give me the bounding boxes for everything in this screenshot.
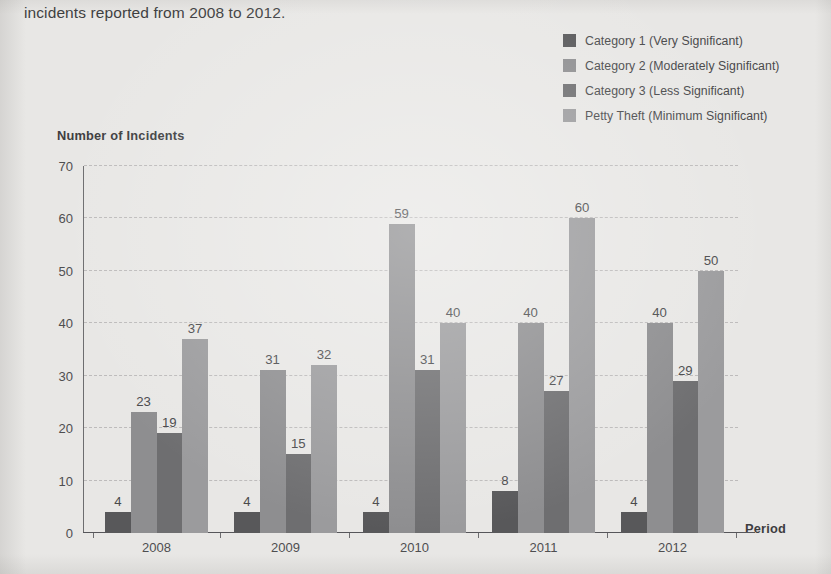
bar: 31 — [415, 166, 441, 533]
bar: 40 — [440, 166, 466, 533]
bar: 27 — [544, 166, 570, 533]
x-axis-tick-mark — [93, 533, 94, 538]
x-axis-tick-label: 2010 — [400, 540, 429, 555]
bar: 32 — [311, 166, 337, 533]
bar-value-label: 31 — [420, 352, 435, 367]
y-axis-tick-label: 10 — [59, 473, 73, 488]
bar-value-label: 15 — [291, 436, 306, 451]
bar-rect — [131, 412, 157, 533]
bar: 19 — [157, 166, 183, 533]
bar-group: 44029502012 — [621, 166, 724, 533]
bar-rect — [544, 391, 570, 533]
y-axis-title: Number of Incidents — [57, 128, 185, 143]
legend-item: Category 2 (Moderately Significant) — [563, 53, 831, 78]
legend-swatch-icon — [563, 34, 576, 47]
bar-value-label: 40 — [652, 305, 667, 320]
bar-value-label: 50 — [704, 253, 719, 268]
bar-value-label: 40 — [523, 305, 538, 320]
bar-rect — [569, 218, 595, 533]
bar-rect — [234, 512, 260, 533]
bar-rect — [389, 224, 415, 533]
bar: 50 — [698, 166, 724, 533]
bar: 15 — [286, 166, 312, 533]
bar-group: 84027602011 — [492, 166, 595, 533]
bar-value-label: 4 — [630, 494, 637, 509]
bar-rect — [698, 271, 724, 533]
bar-group: 42319372008 — [105, 166, 208, 533]
bar: 31 — [260, 166, 286, 533]
bar-value-label: 4 — [114, 494, 121, 509]
bar-rect — [260, 370, 286, 533]
bar-value-label: 4 — [243, 494, 250, 509]
bar-value-label: 40 — [446, 305, 461, 320]
y-axis-tick-label: 0 — [66, 526, 73, 541]
bar-value-label: 23 — [136, 394, 151, 409]
bar-value-label: 4 — [372, 494, 379, 509]
x-axis-tick-mark — [607, 533, 608, 538]
y-axis-tick-label: 40 — [59, 316, 73, 331]
bar-rect — [647, 323, 673, 533]
x-axis-tick-label: 2009 — [271, 540, 300, 555]
legend-item: Petty Theft (Minimum Significant) — [563, 103, 831, 128]
bar: 23 — [131, 166, 157, 533]
bar-rect — [518, 323, 544, 533]
bar-rect — [621, 512, 647, 533]
bar-value-label: 8 — [501, 473, 508, 488]
legend-item-label: Category 1 (Very Significant) — [585, 34, 743, 48]
legend-swatch-icon — [563, 59, 576, 72]
x-axis-tick-mark — [220, 533, 221, 538]
bar-group: 45931402010 — [363, 166, 466, 533]
bar-rect — [415, 370, 441, 533]
bar-value-label: 37 — [188, 321, 203, 336]
bar-rect — [105, 512, 131, 533]
legend-item: Category 3 (Less Significant) — [563, 78, 831, 103]
bar: 4 — [234, 166, 260, 533]
bar-rect — [157, 433, 183, 533]
bar: 29 — [673, 166, 699, 533]
bar-rect — [286, 454, 312, 533]
y-axis-tick-label: 60 — [59, 211, 73, 226]
legend-item-label: Category 3 (Less Significant) — [585, 84, 744, 98]
bar-rect — [673, 381, 699, 533]
bar: 4 — [105, 166, 131, 533]
bar-rect — [311, 365, 337, 533]
bar: 40 — [647, 166, 673, 533]
bar-value-label: 60 — [575, 200, 590, 215]
bar: 59 — [389, 166, 415, 533]
x-axis-tick-label: 2011 — [530, 540, 558, 555]
y-axis-tick-label: 20 — [59, 421, 73, 436]
x-axis-tick-label: 2012 — [658, 540, 687, 555]
caption-text: incidents reported from 2008 to 2012. — [24, 4, 285, 22]
bar: 8 — [492, 166, 518, 533]
bar-value-label: 32 — [317, 347, 332, 362]
bar-value-label: 31 — [265, 352, 280, 367]
bar-rect — [363, 512, 389, 533]
x-axis-tick-mark — [478, 533, 479, 538]
legend-swatch-icon — [563, 109, 576, 122]
x-axis-tick-mark — [349, 533, 350, 538]
y-axis-tick-label: 30 — [59, 368, 73, 383]
chart-legend: Category 1 (Very Significant)Category 2 … — [563, 28, 831, 128]
bar: 60 — [569, 166, 595, 533]
legend-item-label: Category 2 (Moderately Significant) — [585, 59, 780, 73]
plot-area: 010203040506070 423193720084311532200945… — [83, 166, 738, 533]
bar-value-label: 19 — [162, 415, 177, 430]
y-axis-tick-label: 50 — [59, 263, 73, 278]
legend-swatch-icon — [563, 84, 576, 97]
bar-rect — [440, 323, 466, 533]
bar: 4 — [363, 166, 389, 533]
bar-rect — [182, 339, 208, 533]
bar-rect — [492, 491, 518, 533]
bar: 37 — [182, 166, 208, 533]
x-axis-tick-label: 2008 — [142, 540, 171, 555]
bar: 4 — [621, 166, 647, 533]
x-axis-tick-mark — [736, 533, 737, 538]
legend-item: Category 1 (Very Significant) — [563, 28, 831, 53]
bar-value-label: 59 — [394, 206, 409, 221]
bar-group: 43115322009 — [234, 166, 337, 533]
bar-value-label: 27 — [549, 373, 564, 388]
chart-page: incidents reported from 2008 to 2012. Ca… — [0, 0, 831, 574]
y-axis-line — [83, 166, 84, 533]
x-axis-title: Period — [745, 521, 786, 536]
bar: 40 — [518, 166, 544, 533]
